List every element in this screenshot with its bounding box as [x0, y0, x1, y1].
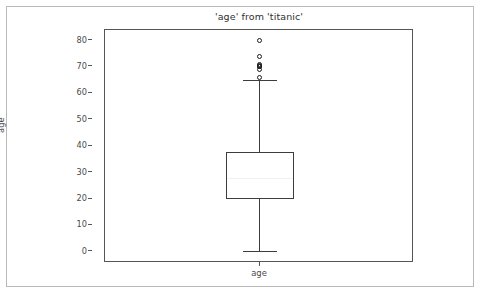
y-axis-tick-label: 20 [77, 192, 87, 204]
boxplot-artists [105, 30, 412, 261]
y-axis-tick-label: 40 [77, 139, 87, 151]
plot-axes [104, 29, 413, 262]
y-axis-tick-mark [88, 250, 92, 251]
y-axis-tick-label: 70 [77, 60, 87, 72]
y-axis-tick-mark [88, 145, 92, 146]
boxplot-whisker-upper [259, 80, 260, 151]
boxplot-outlier-point [257, 54, 262, 59]
y-axis-tick-label: 0 [82, 245, 87, 257]
y-axis-tick-mark [88, 118, 92, 119]
boxplot-box [226, 152, 294, 199]
y-axis-label: age [0, 117, 6, 133]
x-axis-tick-label: age [184, 268, 334, 278]
y-axis-tick-label: 50 [77, 113, 87, 125]
y-axis-tick-mark [88, 39, 92, 40]
y-axis-tick-label: 80 [77, 34, 87, 46]
y-axis-tick-mark [88, 198, 92, 199]
boxplot-outlier-point [257, 67, 262, 72]
boxplot-median-line [227, 178, 293, 179]
y-axis-tick-label: 10 [77, 218, 87, 230]
boxplot-cap-lower [243, 251, 277, 252]
figure-canvas: 'age' from 'titanic' age age 01020304050… [0, 0, 482, 294]
y-axis-tick-mark [88, 92, 92, 93]
boxplot-cap-upper [243, 80, 277, 81]
chart-title: 'age' from 'titanic' [104, 11, 414, 22]
boxplot-whisker-lower [259, 199, 260, 251]
y-axis-tick-label: 60 [77, 86, 87, 98]
y-axis-tick-mark [88, 65, 92, 66]
y-axis-tick-label: 30 [77, 166, 87, 178]
boxplot-outlier-point [257, 38, 262, 43]
y-axis-tick-mark [88, 171, 92, 172]
x-axis-tick-mark [259, 262, 260, 266]
y-axis-tick-mark [88, 224, 92, 225]
